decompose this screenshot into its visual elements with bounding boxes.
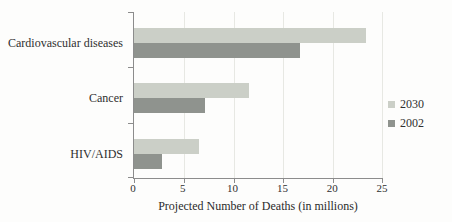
x-tick-label-25: 25 xyxy=(377,182,388,194)
x-tick-label-10: 10 xyxy=(227,182,238,194)
bar-2002-cancer xyxy=(134,98,205,113)
legend-label-2030: 2030 xyxy=(400,97,424,112)
x-tick-label-20: 20 xyxy=(327,182,338,194)
y-axis-tick-3 xyxy=(128,177,133,178)
category-labels: Cardiovascular diseasesCancerHIV/AIDS xyxy=(0,0,128,222)
bar-2030-hiv-aids xyxy=(134,139,199,154)
legend-item-2002: 2002 xyxy=(388,116,424,131)
plot-area xyxy=(133,12,383,179)
bar-2002-cardiovascular-diseases xyxy=(134,43,300,58)
legend-label-2002: 2002 xyxy=(400,116,424,131)
legend-item-2030: 2030 xyxy=(388,97,424,112)
legend-swatch-2030-icon xyxy=(388,101,395,108)
legend-swatch-2002-icon xyxy=(388,120,395,127)
legend: 2030 2002 xyxy=(388,97,424,135)
bar-2030-cancer xyxy=(134,83,249,98)
category-label-cancer: Cancer xyxy=(89,91,123,106)
x-axis-label: Projected Number of Deaths (in millions) xyxy=(158,199,358,214)
x-tick-label-15: 15 xyxy=(277,182,288,194)
x-tick-label-5: 5 xyxy=(180,182,186,194)
y-axis-tick-2 xyxy=(128,123,133,124)
y-axis-tick-1 xyxy=(128,67,133,68)
bar-2002-hiv-aids xyxy=(134,154,162,169)
category-label-hiv-aids: HIV/AIDS xyxy=(70,146,123,161)
y-axis-tick-0 xyxy=(128,12,133,13)
gridline-25 xyxy=(382,12,383,178)
bar-2030-cardiovascular-diseases xyxy=(134,28,366,43)
x-tick-label-0: 0 xyxy=(130,182,136,194)
grouped-bar-chart: Cardiovascular diseasesCancerHIV/AIDS 05… xyxy=(0,0,452,222)
category-label-cardiovascular-diseases: Cardiovascular diseases xyxy=(8,36,123,51)
x-tick-labels: 0510152025 xyxy=(133,182,382,196)
